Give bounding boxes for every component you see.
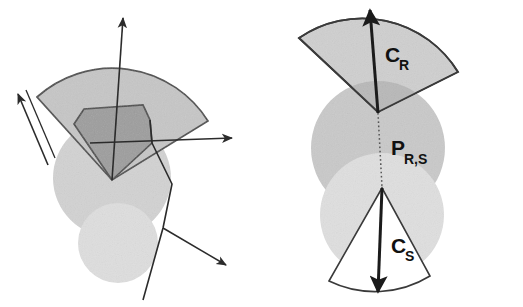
label-cone-s-base: C xyxy=(391,234,406,257)
figure-canvas: C R P R,S C S xyxy=(0,0,523,307)
label-cone-s-sub: S xyxy=(405,248,414,264)
diagram-svg: C R P R,S C S xyxy=(0,0,523,307)
label-point-rs-base: P xyxy=(391,136,405,159)
label-point-rs-sub: R,S xyxy=(404,151,427,167)
label-cone-r-base: C xyxy=(385,43,400,66)
label-cone-r-sub: R xyxy=(399,57,409,73)
lower-sphere xyxy=(78,203,158,283)
